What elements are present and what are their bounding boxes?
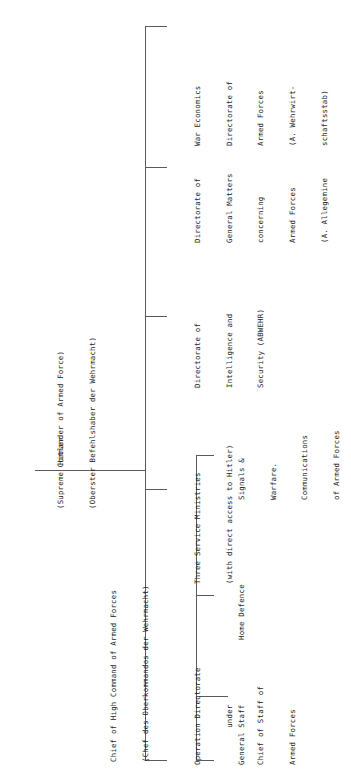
- supreme-commander-line-0: (Supreme Commander of Armed Force): [56, 337, 67, 509]
- war-economics-line-2: Armed Forces: [256, 81, 267, 146]
- general-matters-line-1: General Matters: [225, 173, 236, 243]
- branch-intelligence-security: [145, 316, 167, 317]
- general-staff-line-0: General Staff: [237, 705, 248, 765]
- supreme-commander-line-1: (Oberster Befehlshaber der Wehrmacht): [88, 337, 99, 509]
- intelligence-security-line-0: Directorate of: [193, 309, 204, 388]
- node-home-defence: Home Defence: [216, 584, 269, 640]
- signals-warfare-line-3: of Armed Forces: [332, 430, 343, 500]
- three-service-ministries-line-0: Three Service Ministries: [193, 445, 204, 585]
- general-matters-line-4: (A. Allegemine: [320, 173, 331, 243]
- signals-warfare-line-2: Communications: [300, 430, 311, 500]
- operation-directorate-line-3: Armed Forces: [288, 667, 299, 765]
- home-defence-line-0: Home Defence: [237, 584, 248, 640]
- war-economics-line-3: (A. Wehrwirt-: [288, 81, 299, 146]
- intelligence-security-line-1: Intelligence and: [225, 309, 236, 388]
- org-chart: Hitler (Supreme Commander of Armed Force…: [0, 0, 351, 771]
- node-war-economics: War Economics Directorate of Armed Force…: [172, 81, 351, 146]
- node-general-matters: Directorate of General Matters concernin…: [172, 173, 351, 243]
- signals-warfare-line-0: Signals &: [237, 430, 248, 500]
- war-economics-line-1: Directorate of: [225, 81, 236, 146]
- chief-high-command-line-0: Chief of High Command of Armed Forces: [109, 585, 120, 762]
- war-economics-line-0: War Economics: [193, 81, 204, 146]
- node-supreme-commander-title: (Supreme Commander of Armed Force) (Ober…: [35, 337, 119, 509]
- branch-war-economics: [145, 26, 167, 27]
- operation-directorate-line-0: Operation Directorate: [193, 667, 204, 765]
- branch-home-defence: [196, 595, 214, 596]
- signals-warfare-line-1: Warfare.: [269, 430, 280, 500]
- general-matters-line-3: Armed Forces: [288, 173, 299, 243]
- node-intelligence-security: Directorate of Intelligence and Security…: [172, 309, 288, 388]
- war-economics-line-4: schaftsstab): [320, 81, 331, 146]
- branch-three-service-ministries: [145, 489, 167, 490]
- intelligence-security-line-2: Security (ABWEHR): [256, 309, 267, 388]
- general-matters-line-0: Directorate of: [193, 173, 204, 243]
- node-general-staff: General Staff: [216, 705, 269, 765]
- chief-high-command-line-1: (Chef des Oberkommandos der Wehrmacht): [141, 585, 152, 762]
- node-chief-of-high-command: Chief of High Command of Armed Forces (C…: [88, 585, 172, 762]
- branch-general-matters: [145, 167, 167, 168]
- general-matters-line-2: concerning: [256, 173, 267, 243]
- node-signals-warfare: Signals & Warfare. Communications of Arm…: [216, 430, 351, 500]
